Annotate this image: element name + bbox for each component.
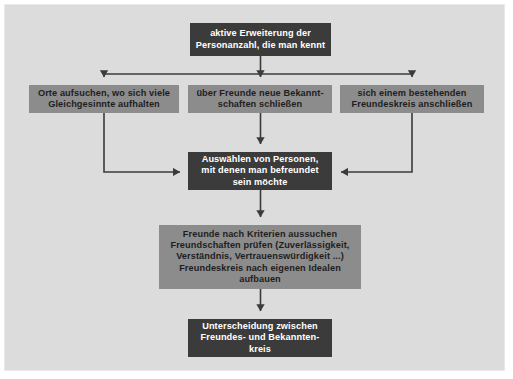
node-active-expansion: aktive Erweiterung der Personanzahl, die… xyxy=(190,23,331,56)
node-bottom-line-2: Freundes- und Bekannten- xyxy=(193,332,327,343)
node-select-persons: Auswählen von Personen, mit denen man be… xyxy=(188,152,332,190)
node-top-text: aktive Erweiterung der Personanzahl, die… xyxy=(190,28,331,50)
node-right-line-2: Freundeskreis anschließen xyxy=(345,99,479,110)
node-select-text: Auswählen von Personen, mit denen man be… xyxy=(188,154,332,188)
node-criteria-line-1: Freunde nach Kriterien aussuchen xyxy=(164,229,356,240)
node-friendship-criteria: Freunde nach Kriterien aussuchen Freunds… xyxy=(159,225,361,289)
node-select-line-3: sein möchte xyxy=(193,177,327,188)
node-left-line-2: Gleichgesinnte aufhalten xyxy=(34,99,174,110)
edge-left-to-select xyxy=(104,113,180,172)
node-through-friends: über Freunde neue Bekannt- schaften schl… xyxy=(188,85,332,113)
node-select-line-1: Auswählen von Personen, xyxy=(193,154,327,165)
node-top-line-2: Personanzahl, die man kennt xyxy=(195,40,326,51)
node-left-text: Orte aufsuchen, wo sich viele Gleichgesi… xyxy=(29,88,179,110)
node-right-text: sich einem bestehenden Freundeskreis ans… xyxy=(340,88,484,110)
diagram-canvas: aktive Erweiterung der Personanzahl, die… xyxy=(4,4,505,371)
node-bottom-line-1: Unterscheidung zwischen xyxy=(193,321,327,332)
node-criteria-line-5: aufbauen xyxy=(164,274,356,285)
node-visit-places: Orte aufsuchen, wo sich viele Gleichgesi… xyxy=(29,85,179,113)
node-mid-text: über Freunde neue Bekannt- schaften schl… xyxy=(188,88,332,110)
node-criteria-line-4: Freundeskreis nach eigenen Idealen xyxy=(164,263,356,274)
node-criteria-line-3: Verständnis, Vertrauenswürdigkeit ...) xyxy=(164,251,356,262)
edge-right-to-select xyxy=(341,113,412,172)
node-right-line-1: sich einem bestehenden xyxy=(345,88,479,99)
node-select-line-2: mit denen man befreundet xyxy=(193,165,327,176)
node-top-line-1: aktive Erweiterung der xyxy=(195,28,326,39)
node-join-existing-circle: sich einem bestehenden Freundeskreis ans… xyxy=(340,85,484,113)
node-criteria-line-2: Freundschaften prüfen (Zuverlässigkeit, xyxy=(164,240,356,251)
node-mid-line-1: über Freunde neue Bekannt- xyxy=(193,88,327,99)
diagram-root: aktive Erweiterung der Personanzahl, die… xyxy=(0,0,513,379)
node-distinction-friends-acquaintances: Unterscheidung zwischen Freundes- und Be… xyxy=(188,319,332,357)
node-bottom-line-3: kreis xyxy=(193,344,327,355)
node-mid-line-2: schaften schließen xyxy=(193,99,327,110)
node-left-line-1: Orte aufsuchen, wo sich viele xyxy=(34,88,174,99)
node-bottom-text: Unterscheidung zwischen Freundes- und Be… xyxy=(188,321,332,355)
node-criteria-text: Freunde nach Kriterien aussuchen Freunds… xyxy=(159,229,361,285)
